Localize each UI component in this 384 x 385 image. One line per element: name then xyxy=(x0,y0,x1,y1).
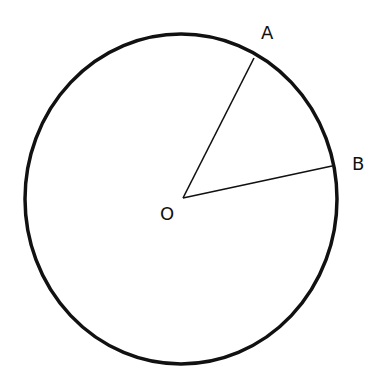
radius-oa xyxy=(183,58,254,198)
label-a: A xyxy=(261,22,274,43)
circle xyxy=(25,34,337,364)
radius-ob xyxy=(183,166,332,198)
label-o: O xyxy=(160,203,174,224)
label-b: B xyxy=(352,153,364,174)
circle-diagram: A B O xyxy=(0,0,384,385)
